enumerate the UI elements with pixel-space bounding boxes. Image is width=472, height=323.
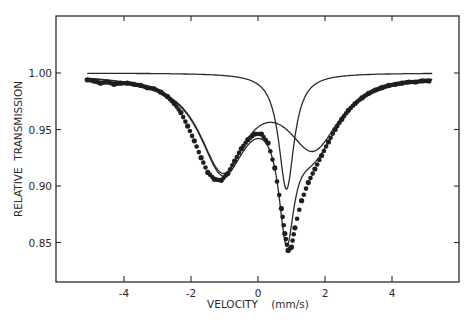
data-point — [364, 93, 369, 98]
data-point — [188, 129, 193, 134]
data-point — [337, 120, 342, 125]
data-point — [143, 85, 148, 90]
data-point — [194, 144, 199, 149]
data-point — [243, 140, 248, 145]
data-point — [315, 162, 320, 167]
x-axis-label: VELOCITY (mm/s) — [207, 298, 309, 310]
data-point — [317, 158, 322, 163]
data-point — [295, 217, 300, 222]
fit-curves — [87, 73, 432, 246]
plot-frame — [56, 16, 459, 282]
data-point — [277, 193, 282, 198]
data-point — [232, 159, 237, 164]
data-point — [331, 131, 336, 136]
data-point — [96, 80, 101, 85]
data-point — [190, 134, 195, 139]
data-point — [306, 180, 311, 185]
data-point — [201, 160, 206, 165]
data-point — [280, 215, 285, 220]
data-point — [351, 104, 356, 109]
data-point — [404, 80, 409, 85]
data-point — [322, 149, 327, 154]
data-point — [319, 153, 324, 158]
data-point — [203, 165, 208, 170]
mossbauer-spectrum-chart: -4-2024 1.000.950.900.85 VELOCITY (mm/s)… — [0, 0, 472, 323]
data-point — [237, 151, 242, 156]
data-point — [210, 175, 215, 180]
data-point — [357, 97, 362, 102]
data-point — [281, 223, 286, 228]
data-point — [275, 179, 280, 184]
data-point — [192, 138, 197, 143]
y-axis-label: RELATIVE TRANSMISSION — [12, 81, 24, 217]
data-point — [344, 111, 349, 116]
data-point — [103, 80, 108, 85]
data-point — [324, 144, 329, 149]
data-point — [272, 165, 277, 170]
data-point — [181, 115, 186, 120]
x-tick-label: 4 — [389, 287, 396, 299]
data-point — [418, 79, 423, 84]
data-point — [328, 136, 333, 141]
data-point — [288, 246, 293, 251]
data-point — [284, 237, 289, 242]
doublet-component-curve — [87, 78, 432, 173]
data-point — [116, 81, 121, 86]
x-axis-ticks: -4-2024 — [119, 16, 396, 299]
data-point — [398, 81, 403, 86]
data-point — [136, 83, 141, 88]
data-points — [85, 77, 432, 253]
x-tick-label: 2 — [322, 287, 329, 299]
data-point — [176, 107, 181, 112]
data-point — [199, 155, 204, 160]
data-point — [217, 178, 222, 183]
data-point — [297, 207, 302, 212]
y-tick-label: 1.00 — [29, 67, 52, 79]
data-point — [310, 171, 315, 176]
data-point — [304, 186, 309, 191]
data-point — [279, 206, 284, 211]
data-point — [282, 231, 287, 236]
data-point — [163, 93, 168, 98]
data-point — [377, 86, 382, 91]
data-point — [235, 155, 240, 160]
y-tick-label: 0.95 — [29, 124, 52, 136]
data-point — [291, 232, 296, 237]
data-point — [123, 81, 128, 86]
data-point — [89, 78, 94, 83]
x-tick-label: -4 — [119, 287, 130, 299]
singlet-component-curve — [87, 73, 432, 189]
data-point — [228, 167, 233, 172]
total-fit-curve — [87, 79, 432, 247]
data-point — [150, 86, 155, 91]
data-point — [264, 138, 269, 143]
data-point — [250, 134, 255, 139]
data-point — [156, 89, 161, 94]
data-point — [326, 139, 331, 144]
data-point — [170, 99, 175, 104]
y-tick-label: 0.85 — [29, 237, 52, 249]
data-point — [257, 132, 262, 137]
y-axis-ticks: 1.000.950.900.85 — [29, 67, 459, 249]
data-point — [230, 163, 235, 168]
data-point — [411, 80, 416, 85]
y-tick-label: 0.90 — [29, 180, 52, 192]
data-point — [292, 225, 297, 230]
data-point — [285, 243, 290, 248]
x-tick-label: -2 — [186, 287, 196, 299]
data-point — [312, 166, 317, 171]
data-point — [268, 149, 273, 154]
data-point — [424, 79, 429, 84]
data-point — [371, 89, 376, 94]
data-point — [308, 176, 313, 181]
data-point — [391, 82, 396, 87]
data-point — [185, 124, 190, 129]
data-point — [299, 198, 304, 203]
data-point — [270, 157, 275, 162]
data-point — [183, 119, 188, 124]
data-point — [223, 174, 228, 179]
data-point — [109, 81, 114, 86]
data-point — [302, 192, 307, 197]
data-point — [384, 84, 389, 89]
data-point — [290, 238, 295, 243]
